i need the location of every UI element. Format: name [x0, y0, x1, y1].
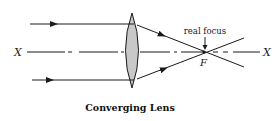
- axis-label-right: X: [262, 46, 272, 59]
- converging-lens-diagram: X X F real focus Converging Lens: [0, 0, 277, 121]
- focal-point: [202, 50, 205, 53]
- focus-label: F: [199, 57, 208, 68]
- real-focus-annotation: real focus: [184, 26, 226, 36]
- diagram-caption: Converging Lens: [85, 102, 174, 113]
- refracted-ray-bottom: [137, 38, 244, 79]
- arrow-down-icon: [203, 37, 208, 50]
- axis-label-left: X: [13, 46, 23, 59]
